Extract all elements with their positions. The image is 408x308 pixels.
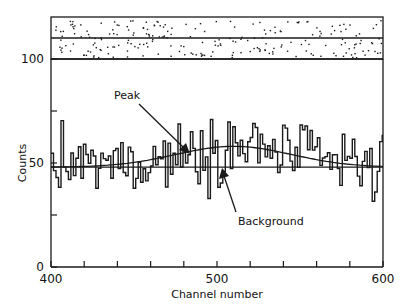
peak-arrow-icon: [139, 104, 190, 154]
y-tick-label-50: 50: [29, 156, 44, 170]
residual-dots: [55, 20, 382, 58]
x-tick-label-600: 600: [372, 272, 395, 286]
chart-figure: 400 500 600 0 50 100 Channel number Coun…: [0, 0, 408, 308]
x-ticks: [51, 261, 383, 267]
background-annotation-label: Background: [238, 215, 304, 228]
x-axis-label: Channel number: [171, 288, 263, 301]
x-tick-label-400: 400: [40, 272, 63, 286]
peak-annotation-label: Peak: [114, 89, 141, 102]
counts-histogram: [51, 120, 383, 202]
x-tick-label-500: 500: [206, 272, 229, 286]
y-tick-label-100: 100: [21, 52, 44, 66]
y-tick-label-0: 0: [36, 260, 44, 274]
background-arrow-icon: [219, 168, 236, 212]
y-axis-label: Counts: [16, 144, 29, 183]
plot-area: [51, 59, 383, 267]
residual-strip: [51, 17, 383, 59]
